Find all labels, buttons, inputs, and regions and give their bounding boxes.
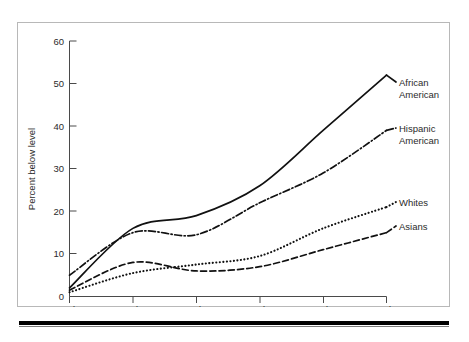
bottom-rule-thin <box>19 326 449 327</box>
y-tick-label-20: 20 <box>53 206 64 217</box>
bottom-rule-thick <box>19 321 449 325</box>
x-tick-label-grade-2: Grade 2 <box>117 304 151 307</box>
y-tick-marks <box>70 41 77 297</box>
series-label-whites: Whites <box>399 197 428 208</box>
series-label-hispanic-american-line2: American <box>399 135 439 146</box>
series-leader-whites <box>387 202 397 207</box>
x-tick-label-grade-4: Grade 4 <box>244 304 278 307</box>
x-tick-label-grade-5: Grade 5 <box>307 304 341 307</box>
series-leader-asians <box>387 226 397 233</box>
series-label-asians: Asians <box>399 221 428 232</box>
x-tick-label-grade-3: Grade 3 <box>180 304 214 307</box>
y-tick-label-50: 50 <box>53 78 64 89</box>
y-tick-label-60: 60 <box>53 36 64 47</box>
y-axis-title: Percent below level <box>26 128 37 210</box>
y-tick-label-30: 30 <box>53 163 64 174</box>
y-tick-label-0: 0 <box>59 291 64 302</box>
series-label-african-american-line2: American <box>399 89 439 100</box>
x-tick-label-grade-1: Grade 1 <box>54 304 88 307</box>
series-label-african-american-line1: African <box>399 77 429 88</box>
y-tick-label-10: 10 <box>53 248 64 259</box>
x-tick-label-grade-6: Grade 6 <box>370 304 404 307</box>
x-tick-marks <box>70 297 387 304</box>
line-chart: 60 50 40 30 20 10 0 Percent below level … <box>17 22 450 307</box>
series-leader-african-american <box>387 75 397 82</box>
series-label-hispanic-american-line1: Hispanic <box>399 123 436 134</box>
y-tick-label-40: 40 <box>53 121 64 132</box>
series-leader-hispanic-american <box>387 128 397 130</box>
series-line-african-american <box>70 75 387 288</box>
